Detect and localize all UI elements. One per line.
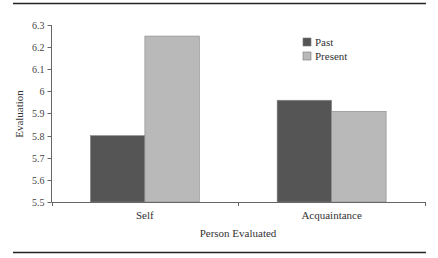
y-tick-label: 5.9 [32, 108, 45, 119]
y-axis-title: Evaluation [13, 90, 25, 138]
legend: PastPresent [303, 36, 347, 62]
y-tick-label: 5.6 [32, 175, 45, 186]
y-tick-label: 6.2 [32, 42, 45, 53]
x-axis-title: Person Evaluated [200, 227, 277, 239]
legend-swatch-present [303, 52, 311, 60]
y-axis: 5.55.65.75.85.966.16.26.3 [32, 20, 52, 208]
y-tick-label: 5.8 [32, 131, 45, 142]
y-tick-label: 6.3 [32, 20, 45, 31]
legend-swatch-past [303, 38, 311, 46]
legend-label-present: Present [315, 50, 347, 62]
bar-past-self [90, 136, 145, 202]
bar-past-acquaintance [277, 100, 332, 202]
y-tick-label: 5.5 [32, 197, 45, 208]
bar-present-self [145, 36, 200, 202]
y-tick-label: 6.1 [32, 64, 45, 75]
x-category-label: Acquaintance [301, 209, 362, 221]
y-tick-label: 5.7 [32, 153, 45, 164]
y-tick-label: 6 [40, 86, 45, 97]
x-category-label: Self [136, 209, 154, 221]
bar-present-acquaintance [332, 111, 387, 202]
x-axis: SelfAcquaintance [52, 202, 426, 221]
bar-chart: 5.55.65.75.85.966.16.26.3 SelfAcquaintan… [0, 0, 438, 258]
legend-label-past: Past [315, 36, 333, 48]
